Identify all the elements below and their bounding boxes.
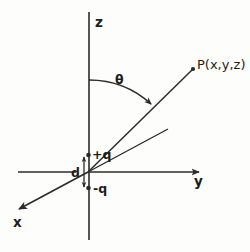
positive-charge-dot <box>86 153 91 158</box>
field-point-label: P(x,y,z) <box>197 57 245 72</box>
theta-angle-label: θ <box>115 72 124 87</box>
negative-charge-label: -q <box>93 181 107 196</box>
diagram-background <box>0 0 250 252</box>
z-axis-label: z <box>95 14 103 30</box>
coordinate-diagram-canvas: z y x P(x,y,z) θ d +q -q <box>0 0 250 252</box>
x-axis-label: x <box>13 214 22 230</box>
field-point-dot <box>191 67 195 71</box>
positive-charge-label: +q <box>92 147 111 162</box>
dipole-diagram-figure: z y x P(x,y,z) θ d +q -q <box>0 0 250 252</box>
negative-charge-dot <box>86 186 91 191</box>
separation-label: d <box>71 165 80 180</box>
y-axis-label: y <box>194 173 203 189</box>
